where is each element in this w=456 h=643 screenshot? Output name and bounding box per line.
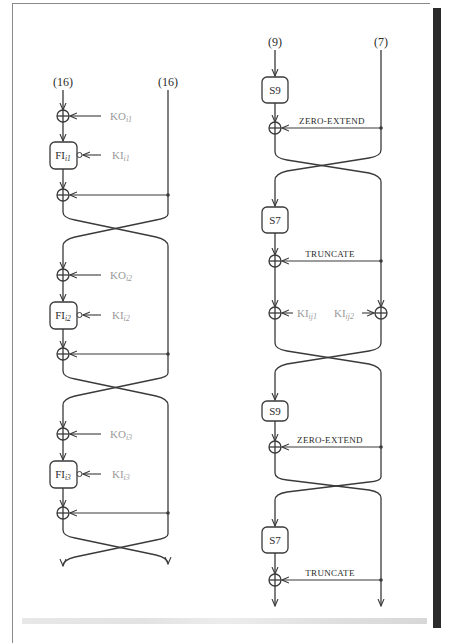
s7-label: S7 <box>269 534 281 546</box>
xor-icon <box>375 307 387 319</box>
key-input-port-icon <box>77 153 82 158</box>
ki-i3-label: KIi3 <box>112 468 130 482</box>
fi-stage-1: S9 ZERO-EXTEND <box>262 50 381 206</box>
fo-input-left-label: (16) <box>53 75 73 89</box>
ko-i3-label: KOi3 <box>110 428 132 442</box>
ki-i2-label: KIi2 <box>112 309 130 323</box>
figure-caption-cutoff <box>22 618 427 624</box>
xor-icon <box>57 269 69 281</box>
fo-round-3: KOi3 FIi3 KIi3 <box>50 409 168 566</box>
ki-ij2-label: KIij2 <box>334 307 354 321</box>
xor-icon <box>57 507 69 519</box>
xor-icon <box>57 110 69 122</box>
zero-extend-label: ZERO-EXTEND <box>299 116 365 126</box>
fi-input-right-label: (7) <box>374 35 388 49</box>
key-input-port-icon <box>77 313 82 318</box>
ki-i1-label: KIi1 <box>112 149 130 163</box>
fo-round-2: KOi2 FIi2 KIi2 <box>50 250 168 428</box>
truncate-label: TRUNCATE <box>305 568 355 578</box>
zero-extend-label: ZERO-EXTEND <box>297 435 363 445</box>
ko-i2-label: KOi2 <box>110 269 132 283</box>
s7-label: S7 <box>269 214 281 226</box>
s9-label: S9 <box>269 405 281 417</box>
fi-stage-2: S7 TRUNCATE KIij1 KIij2 <box>262 185 387 400</box>
fo-function-diagram: (16) (16) KOi1 FIi1 KIi1 <box>50 75 178 566</box>
truncate-label: TRUNCATE <box>305 249 355 259</box>
fi-function-diagram: (9) (7) S9 ZERO-EXTEND S7 <box>262 35 388 606</box>
xor-icon <box>269 307 281 319</box>
xor-icon <box>269 255 281 267</box>
fo-round-1: KOi1 FIi1 KIi1 <box>50 90 168 269</box>
ki-ij1-label: KIij1 <box>297 307 317 321</box>
xor-icon <box>57 348 69 360</box>
fi-stage-3: S9 ZERO-EXTEND <box>262 378 381 526</box>
fi-input-left-label: (9) <box>268 35 282 49</box>
xor-icon <box>269 574 281 586</box>
s9-label: S9 <box>269 84 281 96</box>
xor-icon <box>57 428 69 440</box>
ko-i1-label: KOi1 <box>110 110 132 124</box>
xor-icon <box>57 189 69 201</box>
fo-input-right-label: (16) <box>158 75 178 89</box>
key-input-port-icon <box>77 472 82 477</box>
xor-icon <box>269 122 281 134</box>
fi-stage-4: S7 TRUNCATE <box>262 502 381 606</box>
xor-icon <box>269 441 281 453</box>
